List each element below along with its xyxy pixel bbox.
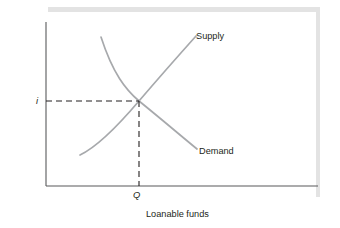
- plot-area: [0, 0, 340, 228]
- demand-curve: [101, 37, 197, 149]
- supply-curve-label: Supply: [196, 32, 224, 41]
- supply-curve: [80, 36, 196, 155]
- demand-curve-label: Demand: [199, 147, 234, 156]
- x-axis-label: Loanable funds: [146, 210, 209, 219]
- loanable-funds-diagram: Supply Demand Loanable funds Interest ra…: [0, 0, 340, 228]
- equilibrium-interest-rate-tick: i: [36, 95, 38, 106]
- equilibrium-quantity-tick: Q: [133, 189, 140, 200]
